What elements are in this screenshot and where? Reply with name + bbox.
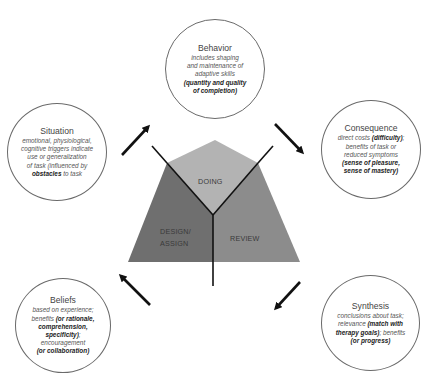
text-line: specificity); bbox=[32, 331, 95, 339]
text-line: includes shaping bbox=[184, 54, 247, 62]
node-body: includes shaping and maintenance of adap… bbox=[180, 54, 251, 95]
label-assign: ASSIGN bbox=[160, 239, 191, 248]
text-line-bold: sense of mastery) bbox=[344, 167, 398, 174]
node-title: Behavior bbox=[198, 43, 232, 53]
label-review: REVIEW bbox=[230, 234, 260, 243]
node-body: direct costs (difficulty); benefits of t… bbox=[334, 134, 409, 175]
node-synthesis: Synthesis conclusions about task; releva… bbox=[321, 275, 420, 371]
node-title: Situation bbox=[40, 126, 73, 136]
node-situation: Situation emotional, physiological, cogn… bbox=[7, 103, 107, 201]
text-line: and maintenance of bbox=[184, 62, 247, 70]
node-beliefs: Beliefs based on experience; benefits (o… bbox=[15, 278, 111, 373]
text-line: relevance (match with bbox=[336, 320, 406, 328]
node-body: conclusions about task; relevance (match… bbox=[332, 312, 410, 345]
text-line-bold: (or collaboration) bbox=[37, 347, 90, 354]
text-line-bold: of completion) bbox=[193, 87, 237, 94]
text-line: benefits of task or bbox=[338, 143, 405, 151]
text-line-bold: comprehension, bbox=[38, 323, 87, 330]
node-title: Consequence bbox=[344, 123, 397, 133]
text-line: based on experience; bbox=[32, 306, 95, 314]
text-line: encouragement bbox=[32, 339, 95, 347]
text-line: reduced symptoms bbox=[338, 151, 405, 159]
text-line: adaptive skills bbox=[184, 70, 247, 78]
arrow-up-right-icon bbox=[122, 127, 148, 155]
text-line: conclusions about task; bbox=[336, 312, 406, 320]
node-title: Beliefs bbox=[50, 295, 76, 305]
label-doing: DOING bbox=[198, 177, 223, 186]
text-line: emotional, physiological, bbox=[21, 137, 93, 145]
text-line: direct costs (difficulty); bbox=[338, 134, 405, 142]
node-consequence: Consequence direct costs (difficulty); b… bbox=[321, 100, 421, 199]
arrow-down-left-icon bbox=[276, 282, 300, 308]
text-line: use or generalization bbox=[21, 153, 93, 161]
text-line: benefits (or rationale, bbox=[32, 315, 95, 323]
arrow-down-right-icon bbox=[275, 124, 302, 152]
text-line: cognitive triggers indicate bbox=[21, 145, 93, 153]
text-line: obstacles to task bbox=[21, 170, 93, 178]
text-line-bold: (sense of pleasure, bbox=[342, 159, 400, 166]
node-body: emotional, physiological, cognitive trig… bbox=[17, 137, 97, 178]
text-line-bold: (or progress) bbox=[351, 337, 391, 344]
arrow-up-left-icon bbox=[121, 276, 150, 305]
node-behavior: Behavior includes shaping and maintenanc… bbox=[165, 19, 265, 119]
label-design-assign: DESIGN/ ASSIGN bbox=[160, 227, 191, 248]
text-line: therapy goals); benefits bbox=[336, 329, 406, 337]
text-line: of task (influenced by bbox=[21, 162, 93, 170]
node-body: based on experience; benefits (or ration… bbox=[28, 306, 99, 355]
node-title: Synthesis bbox=[352, 301, 389, 311]
text-line-bold: (quantity and quality bbox=[184, 79, 247, 86]
label-design: DESIGN/ bbox=[160, 227, 191, 236]
